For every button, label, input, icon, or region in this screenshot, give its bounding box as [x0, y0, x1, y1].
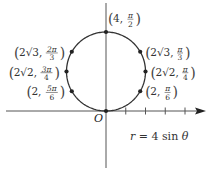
paren-close: )	[135, 11, 140, 27]
curve-point	[64, 69, 68, 73]
label-frac-denominator: 6	[165, 93, 170, 102]
equation-label: r = 4 sin θ	[130, 130, 189, 143]
point-label: (2√3,π3)	[145, 45, 190, 63]
point-label: (2,π6)	[145, 84, 178, 102]
curve-point	[70, 89, 74, 93]
label-frac-denominator: 4	[183, 73, 188, 82]
curve-point	[104, 30, 108, 34]
paren-close: )	[55, 65, 60, 81]
label-frac-denominator: 6	[49, 93, 54, 102]
point-label: (4,π2)	[108, 11, 141, 29]
polar-graph: (4,π2)(2√3,π3)(2√2,π4)(2,π6)(2√3,2π3)(2√…	[0, 0, 212, 170]
point-label: (2,5π6)	[26, 84, 65, 102]
point-label: (2√2,3π4)	[9, 65, 60, 83]
label-frac-denominator: 3	[178, 53, 183, 62]
label-coord-r: 2,	[150, 85, 160, 97]
point-label: (2√3,2π3)	[14, 45, 65, 63]
paren-close: )	[60, 84, 65, 100]
point-label: (2√2,π4)	[150, 65, 195, 83]
label-coord-r: 4,	[113, 12, 123, 24]
paren-close: )	[173, 84, 178, 100]
label-coord-r: 2√2,	[155, 66, 178, 78]
label-frac-denominator: 3	[49, 53, 54, 62]
label-coord-r: 2√2,	[14, 66, 37, 78]
label-coord-r: 2,	[31, 85, 41, 97]
origin-label: O	[94, 112, 103, 125]
label-coord-r: 2√3,	[19, 46, 42, 58]
curve-point	[143, 69, 147, 73]
label-frac-denominator: 2	[128, 20, 133, 29]
curve-point	[70, 50, 74, 54]
label-coord-r: 2√3,	[150, 46, 173, 58]
label-frac-denominator: 4	[44, 73, 49, 82]
curve-point	[138, 50, 142, 54]
curve-point	[138, 89, 142, 93]
paren-close: )	[190, 65, 195, 81]
curve-point	[104, 109, 108, 113]
paren-close: )	[60, 45, 65, 61]
paren-close: )	[185, 45, 190, 61]
